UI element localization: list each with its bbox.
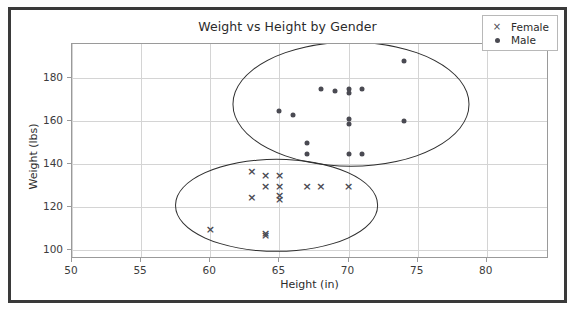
- legend-dot-icon: [489, 34, 505, 45]
- data-point-female: [344, 181, 353, 190]
- data-point-female: [316, 181, 325, 190]
- x-gridline: [72, 44, 73, 257]
- x-tick-label: 70: [341, 264, 354, 276]
- legend-item-female[interactable]: ×Female: [489, 20, 549, 33]
- data-point-male: [277, 108, 282, 113]
- data-point-male: [305, 140, 310, 145]
- y-tick-mark: [67, 163, 71, 164]
- x-axis-label: Height (in): [71, 278, 548, 291]
- data-point-female: [206, 224, 215, 233]
- y-tick-mark: [67, 77, 71, 78]
- data-point-female: [275, 194, 284, 203]
- x-tick-mark: [348, 258, 349, 262]
- y-gridline: [72, 250, 547, 251]
- data-point-male: [305, 151, 310, 156]
- data-point-male: [346, 151, 351, 156]
- data-point-female: [261, 231, 270, 240]
- data-point-male: [291, 112, 296, 117]
- data-point-male: [360, 151, 365, 156]
- data-point-female: [275, 171, 284, 180]
- x-tick-mark: [140, 258, 141, 262]
- y-tick-mark: [67, 249, 71, 250]
- x-tick-label: 80: [479, 264, 492, 276]
- data-point-female: [261, 181, 270, 190]
- x-tick-mark: [486, 258, 487, 262]
- dot-icon: [495, 38, 500, 43]
- data-point-male: [332, 89, 337, 94]
- y-tick-label: 180: [25, 71, 63, 83]
- data-point-female: [303, 181, 312, 190]
- data-point-male: [401, 119, 406, 124]
- x-tick-label: 65: [272, 264, 285, 276]
- x-tick-label: 60: [203, 264, 216, 276]
- data-point-male: [346, 121, 351, 126]
- x-tick-label: 75: [410, 264, 423, 276]
- data-point-male: [360, 87, 365, 92]
- data-point-male: [318, 87, 323, 92]
- x-tick-mark: [278, 258, 279, 262]
- legend: ×FemaleMale: [482, 15, 558, 51]
- x-tick-mark: [71, 258, 72, 262]
- y-tick-mark: [67, 206, 71, 207]
- legend-label: Female: [505, 21, 549, 33]
- x-tick-mark: [209, 258, 210, 262]
- x-gridline: [487, 44, 488, 257]
- data-point-female: [247, 166, 256, 175]
- plot-area: [71, 43, 548, 258]
- y-axis-label: Weight (lbs): [27, 97, 40, 217]
- data-point-female: [261, 171, 270, 180]
- male-cluster-ellipse: [233, 43, 470, 166]
- x-tick-mark: [417, 258, 418, 262]
- legend-label: Male: [505, 34, 536, 46]
- x-tick-label: 50: [64, 264, 77, 276]
- legend-cross-icon: ×: [489, 21, 505, 32]
- data-point-female: [247, 192, 256, 201]
- x-gridline: [141, 44, 142, 257]
- y-tick-label: 100: [25, 243, 63, 255]
- legend-item-male[interactable]: Male: [489, 33, 549, 46]
- x-tick-label: 55: [133, 264, 146, 276]
- data-point-male: [346, 91, 351, 96]
- data-point-male: [401, 59, 406, 64]
- figure-frame: Weight vs Height by Gender 5055606570758…: [8, 7, 567, 303]
- y-tick-mark: [67, 120, 71, 121]
